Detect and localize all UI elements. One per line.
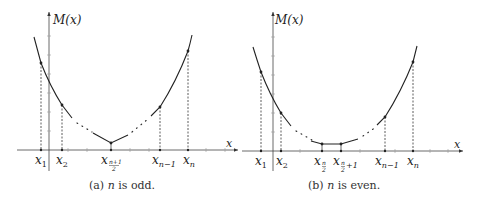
svg-text:2: 2: [340, 166, 345, 173]
point-xn2p1: [340, 143, 343, 146]
panel-even: M(x) x x1 x2 x n 2 x n 2 +1 xn−1 xn (b) …: [242, 12, 463, 192]
label-xn1: xn−1: [375, 154, 399, 170]
svg-text:n: n: [322, 159, 326, 166]
curve-middle: [311, 139, 358, 144]
svg-text:+1: +1: [346, 161, 358, 170]
label-xn: xn: [407, 154, 419, 170]
dotted-left: [77, 123, 92, 132]
dotted-right: [132, 119, 148, 132]
panel-odd: M(x) x x1 x2 x n+1 2 xn−1 xn (a) n is od…: [17, 12, 238, 192]
figure: M(x) x x1 x2 x n+1 2 xn−1 xn (a) n is od…: [0, 0, 481, 205]
point-xn: [187, 50, 190, 53]
x-axis-label: x: [226, 137, 233, 150]
point-x1: [40, 62, 43, 65]
caption-odd: (a) n is odd.: [89, 179, 155, 192]
point-x2: [280, 112, 283, 115]
label-xn2: x n 2: [314, 154, 326, 173]
x-labels: x1 x2 x n 2 x n 2 +1 xn−1 xn: [255, 154, 419, 173]
y-axis-label: M(x): [274, 13, 304, 27]
caption-even: (b) n is even.: [308, 179, 380, 192]
svg-text:x: x: [333, 154, 340, 168]
label-x2: x2: [276, 154, 288, 170]
curve-right: [151, 35, 192, 116]
curve-left: [253, 47, 291, 126]
point-xmid: [110, 142, 113, 145]
dotted-right: [363, 127, 376, 136]
point-xn1: [159, 106, 162, 109]
point-x2: [61, 104, 64, 107]
label-xn1: xn−1: [152, 153, 176, 169]
svg-text:x: x: [314, 154, 321, 168]
label-xn: xn: [183, 153, 195, 169]
label-x2: x2: [56, 153, 68, 169]
svg-text:2: 2: [321, 166, 326, 173]
curve-left: [34, 37, 72, 118]
svg-text:n+1: n+1: [109, 158, 122, 165]
label-x1: x1: [35, 153, 47, 169]
point-xn: [412, 61, 415, 64]
label-xn2p1: x n 2 +1: [333, 154, 358, 173]
point-x1: [260, 71, 263, 74]
y-axis-label: M(x): [52, 13, 82, 27]
curve-right: [377, 46, 417, 125]
dotted-left: [296, 131, 312, 140]
point-xn1: [384, 116, 387, 119]
svg-text:2: 2: [111, 165, 116, 172]
x-axis-label: x: [454, 138, 461, 151]
label-x1: x1: [255, 154, 267, 170]
svg-text:n: n: [341, 159, 345, 166]
point-xn2: [321, 143, 324, 146]
x-labels: x1 x2 x n+1 2 xn−1 xn: [35, 153, 195, 172]
data-points: [40, 50, 190, 152]
svg-text:x: x: [101, 153, 108, 167]
curve-middle: [93, 133, 128, 143]
label-xmid: x n+1 2: [101, 153, 122, 172]
